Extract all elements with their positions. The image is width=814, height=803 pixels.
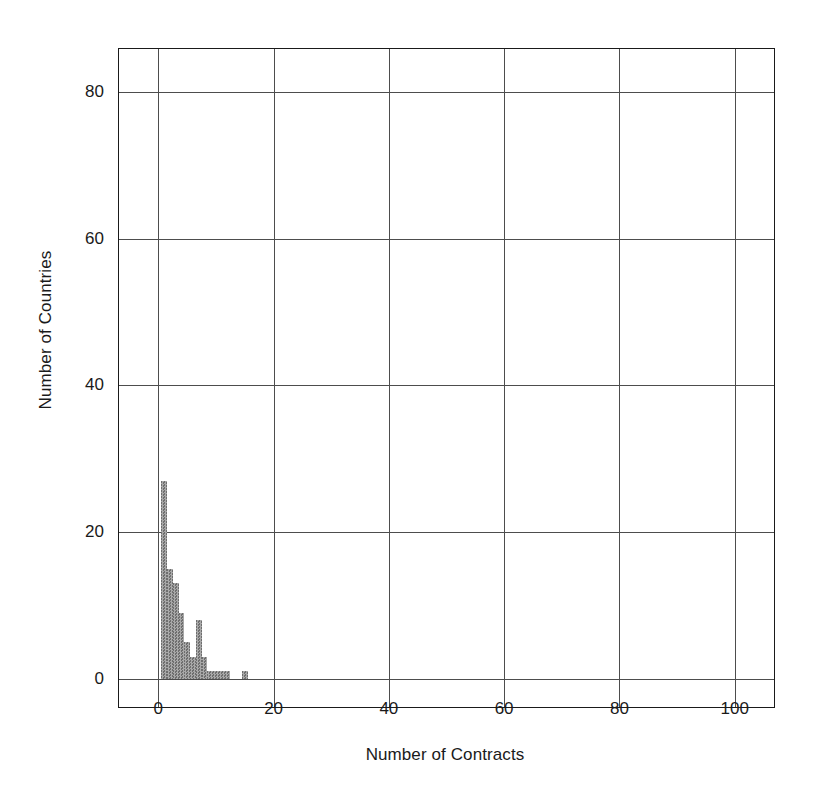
y-tick-label: 60 (44, 230, 104, 247)
x-tick-label: 0 (118, 700, 198, 717)
x-axis-tick-labels: 020406080100 (0, 700, 814, 730)
plot-area (118, 48, 775, 708)
y-tick-label: 80 (44, 83, 104, 100)
x-tick-label: 60 (464, 700, 544, 717)
x-tick-label: 80 (579, 700, 659, 717)
y-tick-label: 40 (44, 376, 104, 393)
y-axis-tick-labels: 020406080 (36, 0, 104, 803)
histogram-figure: Number of Countries 020406080 0204060801… (0, 0, 814, 803)
plot-frame (118, 48, 775, 708)
x-tick-label: 40 (349, 700, 429, 717)
y-tick-label: 0 (44, 670, 104, 687)
x-tick-label: 20 (234, 700, 314, 717)
x-axis-title: Number of Contracts (155, 745, 735, 765)
x-tick-label: 100 (695, 700, 775, 717)
y-tick-label: 20 (44, 523, 104, 540)
